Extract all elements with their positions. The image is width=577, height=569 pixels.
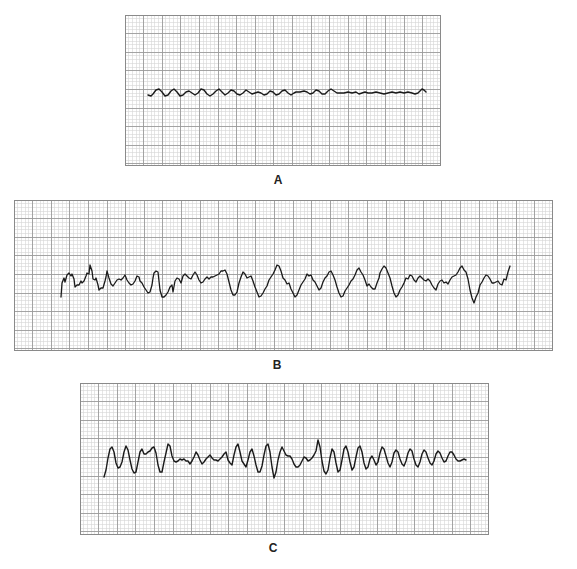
strip-label-b: B xyxy=(267,358,287,372)
strip-label-a: A xyxy=(268,173,288,187)
ecg-strip-b xyxy=(14,200,553,351)
ecg-strip-c xyxy=(80,383,489,535)
ecg-grid-and-trace-b xyxy=(14,200,553,351)
ecg-strip-a xyxy=(125,15,441,166)
strip-label-c: C xyxy=(263,541,283,555)
ecg-grid-and-trace-c xyxy=(80,383,489,535)
ecg-grid-and-trace-a xyxy=(125,15,441,166)
